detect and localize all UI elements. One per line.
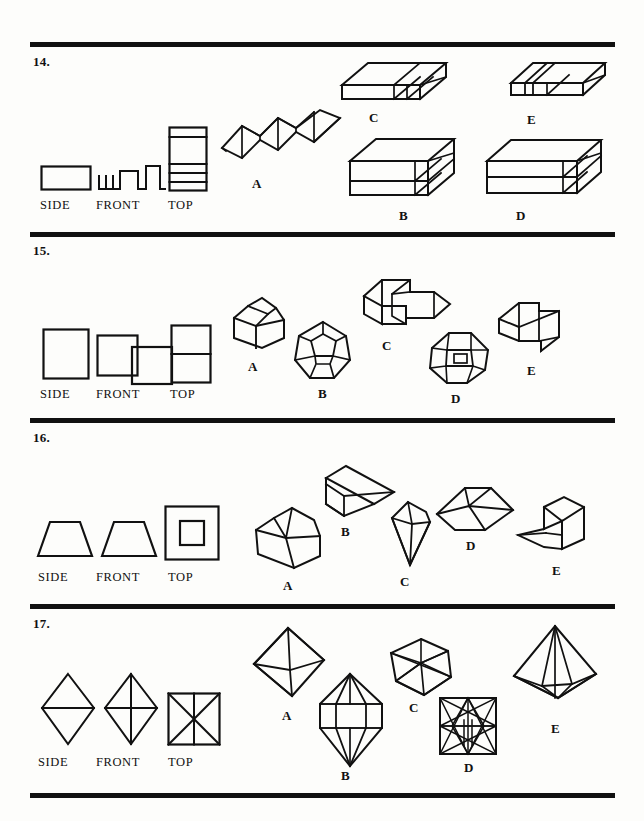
q14-option-b-label: B <box>399 208 408 224</box>
q14-option-d-figure <box>485 133 607 208</box>
q16-option-a-figure <box>252 506 324 572</box>
q15-view-side-figure <box>42 328 90 380</box>
q17-option-a-figure <box>250 626 326 700</box>
q14-option-a-figure <box>214 106 344 168</box>
q17-view-side-figure <box>40 672 96 746</box>
question-number-14: 14. <box>33 54 50 70</box>
q14-option-b-figure <box>348 133 458 208</box>
q14-view-top-caption: TOP <box>168 198 193 213</box>
q17-option-b-figure <box>316 672 386 768</box>
question-number-15: 15. <box>33 243 50 259</box>
q17-option-e-figure <box>510 624 600 704</box>
q17-view-front-figure <box>103 672 159 746</box>
q14-option-c-figure <box>340 57 450 109</box>
q15-option-d-figure <box>427 330 491 386</box>
q14-option-e-figure <box>509 57 609 109</box>
q15-option-a-label: A <box>248 359 257 375</box>
q14-option-a-label: A <box>252 176 261 192</box>
q16-view-top-figure <box>164 505 220 561</box>
q14-option-c-label: C <box>369 110 378 126</box>
q16-view-side-figure <box>36 519 94 559</box>
q17-view-top-figure <box>167 692 221 746</box>
q15-option-b-figure <box>292 320 354 382</box>
q17-option-c-label: C <box>409 700 418 716</box>
q15-view-front-figure <box>96 334 174 386</box>
q16-option-b-figure <box>322 464 396 520</box>
q16-option-b-label: B <box>341 524 350 540</box>
q15-option-b-label: B <box>318 386 327 402</box>
q15-view-top-caption: TOP <box>170 387 195 402</box>
question-number-16: 16. <box>33 430 50 446</box>
q14-option-e-label: E <box>527 112 536 128</box>
q17-option-c-figure <box>388 637 454 699</box>
rule-after-q16 <box>30 604 615 609</box>
q15-option-c-label: C <box>382 338 391 354</box>
q15-option-a-figure <box>228 296 290 352</box>
q17-option-d-figure <box>438 696 498 756</box>
test-page: 14. SIDE FRONT TOP A <box>0 0 644 821</box>
q16-option-e-label: E <box>552 563 561 579</box>
q14-view-front-caption: FRONT <box>96 198 140 213</box>
q16-option-a-label: A <box>283 578 292 594</box>
q14-view-front-figure <box>98 163 166 191</box>
q15-option-e-figure <box>495 297 565 359</box>
q15-view-front-caption: FRONT <box>96 387 140 402</box>
q15-option-c-figure <box>360 270 452 330</box>
q16-view-front-caption: FRONT <box>96 570 140 585</box>
q14-view-side-caption: SIDE <box>40 198 70 213</box>
rule-after-q14 <box>30 232 615 237</box>
q17-view-side-caption: SIDE <box>38 755 68 770</box>
rule-bottom <box>30 793 615 798</box>
q16-option-e-figure <box>516 495 588 557</box>
q15-view-top-figure <box>170 324 212 384</box>
rule-top <box>30 42 615 47</box>
q16-view-front-figure <box>100 519 158 559</box>
q14-view-side-figure <box>40 165 92 191</box>
q14-view-top-figure <box>168 126 208 192</box>
q17-option-a-label: A <box>282 708 291 724</box>
q16-option-c-figure <box>388 500 434 568</box>
q16-view-top-caption: TOP <box>168 570 193 585</box>
q16-option-d-label: D <box>466 538 475 554</box>
q16-option-c-label: C <box>400 574 409 590</box>
q14-option-d-label: D <box>516 208 525 224</box>
q17-option-d-label: D <box>464 760 473 776</box>
question-number-17: 17. <box>33 616 50 632</box>
q15-option-d-label: D <box>451 391 460 407</box>
q16-option-d-figure <box>435 484 515 536</box>
q17-option-b-label: B <box>341 768 350 784</box>
q17-view-front-caption: FRONT <box>96 755 140 770</box>
q15-option-e-label: E <box>527 363 536 379</box>
q15-view-side-caption: SIDE <box>40 387 70 402</box>
rule-after-q15 <box>30 418 615 423</box>
q17-option-e-label: E <box>551 721 560 737</box>
q17-view-top-caption: TOP <box>168 755 193 770</box>
q16-view-side-caption: SIDE <box>38 570 68 585</box>
